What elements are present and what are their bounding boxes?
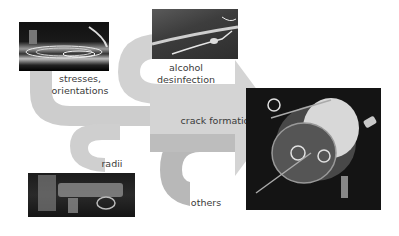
radii-label: radii <box>92 158 132 170</box>
alcohol-crack-pattern <box>152 9 238 59</box>
stresses-label-line2: orientations <box>40 85 120 97</box>
crack-formation-diagram: stresses, orientations alcohol desinfect… <box>0 0 399 236</box>
alcohol-photo <box>152 9 238 59</box>
device-photo <box>246 88 381 210</box>
alcohol-label-line2: desinfection <box>146 74 226 86</box>
alcohol-label: alcohol desinfection <box>146 62 226 86</box>
stresses-label: stresses, orientations <box>40 73 120 97</box>
stresses-label-line1: stresses, <box>40 73 120 85</box>
stress-photo <box>19 22 109 71</box>
others-label: others <box>186 197 226 209</box>
others-arrow-segment <box>150 134 235 152</box>
stress-fringe-pattern <box>19 22 109 71</box>
device-illustration <box>246 88 381 210</box>
radii-photo <box>28 173 135 217</box>
alcohol-label-line1: alcohol <box>146 62 226 74</box>
radii-parts <box>28 173 135 217</box>
